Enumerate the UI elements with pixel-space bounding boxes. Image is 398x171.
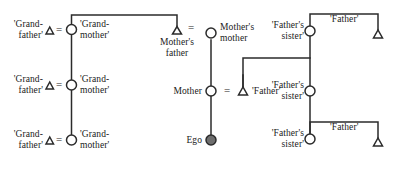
female-symbol-grandmother-2 [67,80,77,90]
female-symbol-mother [206,86,216,96]
marriage-equals-row3: = [56,134,62,145]
label-mothers-father: Mother's father [130,37,224,58]
label-grandfather-3: 'Grand- father' [0,129,43,150]
ego-symbol [206,135,216,145]
label-grandfather-1: 'Grand- father' [0,19,43,40]
label-fathers-sister-3: 'Father's sister' [258,128,304,149]
label-father-bottom: 'Father' [330,122,378,133]
label-grandmother-2: 'Grand- mother' [80,74,140,95]
male-symbol-grandfather-1 [46,27,54,34]
male-symbol-grandfather-3 [46,137,54,144]
female-symbol-grandmother-1 [67,25,77,35]
female-symbol-fathers-sister-2 [305,86,315,96]
label-ego: Ego [160,135,202,146]
male-symbol-father-bottom [374,138,383,146]
label-fathers-sister-2: 'Father's sister' [258,80,304,101]
label-grandfather-2: 'Grand- father' [0,74,43,95]
male-symbol-father-top [374,30,383,38]
marriage-equals-row1: = [56,24,62,35]
male-symbol-grandfather-2 [46,82,54,89]
label-mother: Mother [140,86,202,97]
male-symbol-mothers-father [173,27,182,35]
male-symbol-father-middle [239,87,248,95]
marriage-equals-row2: = [56,79,62,90]
marriage-equals-mothers-parents: = [188,22,194,33]
female-symbol-fathers-sister-1 [305,26,315,36]
marriage-equals-parents: = [224,85,230,96]
label-father-top: 'Father' [330,14,378,25]
female-symbol-fathers-sister-3 [305,134,315,144]
label-fathers-sister-1: 'Father's sister' [258,20,304,41]
label-grandmother-3: 'Grand- mother' [80,129,140,150]
female-symbol-grandmother-3 [67,135,77,145]
kinship-diagram: = = = = = 'Grand- father' 'Grand- mother… [0,0,398,171]
